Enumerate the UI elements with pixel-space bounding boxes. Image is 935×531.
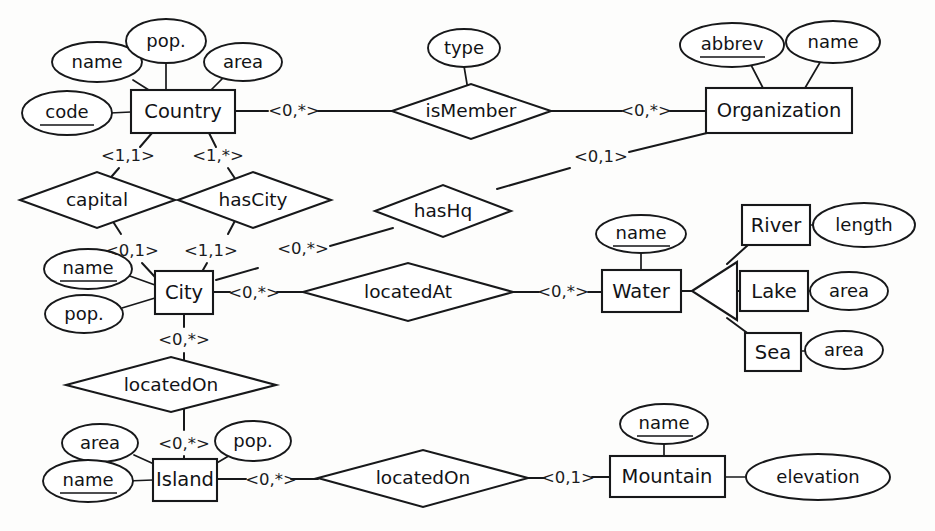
relationship-locatedon-city-island-label: locatedOn — [124, 374, 219, 395]
relationship-capital-label: capital — [66, 189, 128, 210]
edge-city-hashq-b — [330, 228, 393, 246]
entity-water-label: Water — [612, 280, 671, 303]
attribute-country-code-label: code — [45, 101, 88, 122]
cardinality-org-ismember: <0,*> — [620, 101, 672, 120]
attribute-country-pop-label: pop. — [146, 30, 186, 51]
cardinality-mountain-locatedon: <0,1> — [541, 468, 595, 487]
isa-triangle-water — [692, 262, 737, 320]
attribute-sea-area-label: area — [824, 339, 864, 360]
attribute-ismember-type-label: type — [444, 37, 484, 58]
er-diagram-svg: isMember capital hasCity hasHq locatedAt… — [0, 0, 935, 531]
attribute-river-length-label: length — [835, 214, 892, 235]
relationship-locatedon-island-mountain-label: locatedOn — [376, 467, 471, 488]
edge-org-hashq-lower — [497, 168, 570, 189]
edge-org-hashq-upper — [629, 133, 707, 152]
relationship-locatedat-label: locatedAt — [364, 281, 452, 302]
cardinality-water-locatedat: <0,*> — [537, 282, 589, 301]
entity-country-label: Country — [144, 100, 221, 123]
attribute-island-name-label: name — [62, 469, 113, 490]
cardinality-org-hashq: <0,1> — [574, 147, 628, 166]
attribute-mountain-elevation-label: elevation — [776, 466, 859, 487]
attribute-island-area-label: area — [80, 432, 120, 453]
edge-country-code — [110, 112, 131, 113]
cardinality-city-hascity: <1,1> — [184, 241, 238, 260]
cardinality-country-hascity: <1,*> — [192, 146, 244, 165]
edge-org-name — [805, 59, 822, 88]
attribute-city-name-label: name — [62, 257, 113, 278]
entity-sea-label: Sea — [755, 341, 791, 364]
attribute-lake-area-label: area — [829, 280, 869, 301]
cardinality-island-locatedon: <0,*> — [158, 434, 210, 453]
attribute-country-area-label: area — [223, 51, 263, 72]
attribute-water-name-label: name — [615, 222, 666, 243]
relationship-hashq-label: hasHq — [414, 200, 472, 221]
entity-island-label: Island — [156, 468, 214, 491]
entity-organization-label: Organization — [717, 99, 842, 122]
attribute-island-pop-label: pop. — [233, 430, 273, 451]
cardinality-city-locatedon: <0,*> — [158, 330, 210, 349]
edge-city-name — [127, 275, 155, 285]
cardinality-country-capital: <1,1> — [101, 146, 155, 165]
cardinality-city-hashq: <0,*> — [277, 239, 329, 258]
edge-city-pop — [122, 298, 155, 308]
edge-island-area — [134, 455, 154, 464]
entity-mountain-label: Mountain — [622, 465, 713, 488]
attribute-org-abbrev-label: abbrev — [701, 33, 764, 54]
edge-capital-city-bot — [142, 263, 155, 277]
edge-city-hashq-a — [216, 268, 258, 280]
cardinality-city-capital: <0,1> — [105, 241, 159, 260]
entity-lake-label: Lake — [751, 280, 796, 303]
relationship-hascity-label: hasCity — [219, 189, 288, 210]
cardinality-country-ismember: <0,*> — [268, 101, 320, 120]
cardinality-island-locatedon2: <0,*> — [245, 470, 297, 489]
entity-river-label: River — [751, 214, 803, 237]
attribute-country-name-label: name — [71, 51, 122, 72]
cardinality-city-locatedat: <0,*> — [228, 283, 280, 302]
attribute-org-name-label: name — [807, 31, 858, 52]
attribute-mountain-name-label: name — [638, 412, 689, 433]
entity-city-label: City — [165, 281, 203, 304]
er-diagram-canvas: isMember capital hasCity hasHq locatedAt… — [0, 0, 935, 531]
attribute-city-pop-label: pop. — [64, 303, 104, 324]
edge-org-abbrev — [750, 63, 763, 88]
relationship-ismember-label: isMember — [426, 100, 517, 121]
